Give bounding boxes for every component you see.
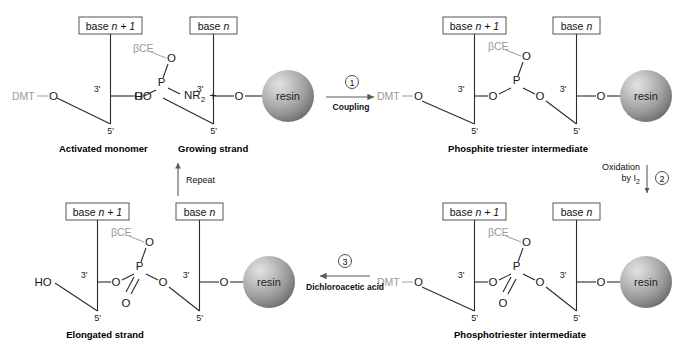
bond-p-to-nr2-monomer [168,88,180,94]
step-2-oxidation-arrow: 2 Oxidation by I2 [602,162,669,193]
label-5prime-elongated-right: 5' [196,313,203,323]
atom-o-bce-elongated: O [145,236,154,248]
bond-o-p-phospho-left [499,274,511,280]
label-3prime-growing: 3' [197,84,204,94]
caption-phosphotriester: Phosphotriester intermediate [454,329,586,340]
caption-activated-monomer: Activated monomer [59,143,148,154]
label-ho-elongated: HO [34,276,51,288]
bond-5prime-diagonal-elongated-right [169,287,200,311]
atom-o-phosphite-left: O [489,90,498,102]
bond-p-o-bce-phospho [518,248,523,262]
atom-o-double-phospho: O [499,297,508,309]
atom-o-phospho-left: O [489,276,498,288]
label-5prime-phospho-right: 5' [573,313,580,323]
label-3prime-phospho-left: 3' [458,270,465,280]
label-3prime-phosphite-left: 3' [458,84,465,94]
label-5prime-phosphite-left: 5' [471,126,478,136]
reaction-scheme-svg: basen + 1 3' 5' DMT O O P O βCE [0,0,676,351]
atom-o-dmt-phospho: O [414,276,423,288]
structure-phosphotriester: basen + 1 3' O DMT O 5' P O βCE O O [377,203,672,340]
atom-o-phospho-right: O [536,276,545,288]
resin-label-elongated: resin [257,276,281,288]
label-5prime-phospho-left: 5' [471,313,478,323]
label-dmt-monomer: DMT [12,90,35,102]
step-3-number: 3 [342,257,347,267]
label-5prime-growing: 5' [210,126,217,136]
label-5prime-elongated-left: 5' [94,313,101,323]
bond-5prime-diagonal-phosphite-left [422,101,475,124]
atom-o-resin-phosphite: O [597,90,606,102]
step-3-deprotection-arrow: 3 Dichloroacetic acid [306,255,384,293]
repeat-label: Repeat [186,175,216,185]
bond-5prime-diagonal-left [57,98,111,124]
label-bce-monomer: βCE [133,42,154,54]
atom-o-dmt-monomer: O [49,90,58,102]
label-bce-phospho: βCE [488,226,509,238]
step-2-number: 2 [659,174,664,184]
figure-canvas: basen + 1 3' 5' DMT O O P O βCE [0,0,676,351]
label-3prime-elongated-left: 3' [81,270,88,280]
atom-o-dmt-phosphite: O [414,90,423,102]
resin-label-growing: resin [276,90,300,102]
step-1-coupling-arrow: 1 Coupling [326,76,374,113]
bond-o-p-elongated-left [122,274,134,280]
step-2-label-line1: Oxidation [602,162,640,172]
bond-p-o-phospho-right [523,274,535,280]
base-label-n-growing: basen [198,20,230,32]
caption-growing-strand: Growing strand [178,143,248,154]
atom-o-resin-elongated: O [220,276,229,288]
caption-elongated-strand: Elongated strand [66,329,144,340]
structure-phosphite-triester: basen + 1 3' O DMT O 5' P O βCE O basen [377,17,672,154]
atom-o-elongated-left: O [112,276,121,288]
bond-5prime-diagonal-elongated-left [55,283,98,311]
atom-p-phospho: P [513,260,521,272]
base-label-n-phospho: basen [561,206,593,218]
label-dmt-phosphite: DMT [377,90,400,102]
caption-phosphite-triester: Phosphite triester intermediate [448,143,588,154]
bond-p-o-bce-phosphite [518,62,523,76]
bond-p-o-bce-elongated [141,248,146,262]
resin-label-phosphite: resin [634,90,658,102]
label-3prime-phosphite-right: 3' [560,84,567,94]
bond-p-o-elongated-right [146,274,158,280]
bond-5prime-diagonal-phosphite-right [546,101,577,124]
label-3prime-elongated-right: 3' [183,270,190,280]
base-label-n-phosphite: basen [561,20,593,32]
label-3prime-phospho-right: 3' [560,270,567,280]
label-3prime-monomer: 3' [94,84,101,94]
label-bce-elongated: βCE [111,226,132,238]
atom-o-resin-phospho: O [597,276,606,288]
bond-5prime-diagonal-phospho-right [546,287,577,311]
atom-p-monomer: P [158,76,166,88]
atom-o-bce-phospho: O [522,236,531,248]
atom-o-bce-monomer: O [167,52,176,64]
label-ho-growing: HO [134,90,151,102]
bond-5prime-diagonal-growing [163,98,214,124]
label-bce-phosphite: βCE [488,40,509,52]
bond-p-to-o-bce-monomer [163,64,168,78]
step-1-label: Coupling [333,102,370,112]
bond-p-o-phosphite-right [523,88,535,94]
structure-activated-monomer: basen + 1 3' 5' DMT O O P O βCE [12,17,206,154]
atom-o-bce-phosphite: O [522,50,531,62]
atom-o-double-elongated: O [122,297,131,309]
step-3-label: Dichloroacetic acid [306,282,384,292]
atom-o-growing: O [235,90,244,102]
repeat-arrow: Repeat [178,163,216,196]
structure-elongated-strand: basen + 1 3' O HO 5' P O βCE O O basen [34,203,295,340]
base-label-n-elongated: basen [184,206,216,218]
bond-o-p-phosphite-left [499,88,511,94]
atom-p-phosphite: P [513,74,521,86]
step-1-number: 1 [349,78,354,88]
atom-p-elongated: P [136,260,144,272]
step-2-label-line2: by I2 [622,173,641,185]
atom-o-elongated-right: O [159,276,168,288]
resin-label-phospho: resin [634,276,658,288]
label-5prime-phosphite-right: 5' [573,126,580,136]
atom-o-phosphite-right: O [536,90,545,102]
bond-5prime-diagonal-phospho-left [422,287,475,311]
label-5prime-monomer: 5' [107,126,114,136]
